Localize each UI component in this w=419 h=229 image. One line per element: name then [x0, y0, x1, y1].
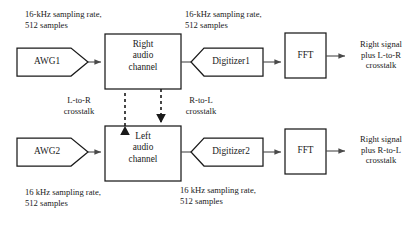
node-left-channel-label: Left audio channel	[105, 131, 181, 165]
annotation-bottom-right-sampling-rate: 16 kHz sampling rate, 512 samples	[180, 185, 320, 206]
block-diagram: AWG1 Right audio channel Digitizer1 FFT …	[0, 0, 419, 229]
annotation-crosstalk-r-to-l: R-to-L crosstalk	[170, 95, 232, 116]
node-right-channel-label: Right audio channel	[105, 39, 181, 73]
node-awg1-label: AWG1	[17, 56, 77, 67]
annotation-bottom-left-sampling-rate: 16 kHz sampling rate, 512 samples	[25, 187, 165, 208]
annotation-crosstalk-l-to-r: L-to-R crosstalk	[48, 95, 110, 116]
node-awg2-label: AWG2	[17, 146, 77, 157]
node-fft-top-label: FFT	[285, 50, 326, 61]
annotation-top-left-sampling-rate: 16-kHz sampling rate, 512 samples	[25, 9, 165, 30]
node-digitizer1-label: Digitizer1	[196, 56, 266, 67]
annotation-top-right-sampling-rate: 16-kHz sampling rate, 512 samples	[185, 9, 325, 30]
node-digitizer2-label: Digitizer2	[196, 146, 266, 157]
annotation-output-top: Right signal plus L-to-R crosstalk	[344, 39, 418, 71]
annotation-output-bottom: Right signal plus R-to-L crosstalk	[344, 134, 418, 166]
node-fft-bottom-label: FFT	[285, 145, 326, 156]
